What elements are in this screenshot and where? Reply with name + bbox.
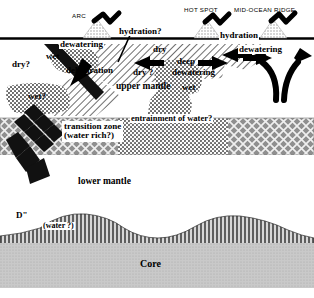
label-mid-ocean-ridge: MID-OCEAN RIDGE	[234, 7, 295, 14]
label-upper-mantle: upper mantle	[116, 82, 170, 92]
eruption-squiggle-hot-spot	[205, 14, 229, 23]
label-deep-dewatering: dewatering	[172, 68, 215, 77]
label-d-layer-water: (water ?)	[42, 222, 75, 230]
label-arc: ARC	[72, 13, 86, 20]
label-wet-plume: wet	[182, 83, 196, 92]
eruption-squiggle-arc	[94, 13, 119, 22]
label-dewatering-arc: dewatering	[59, 40, 104, 49]
label-hydration-ridge: hydration	[219, 31, 259, 40]
label-dry-wedge: dry	[153, 45, 167, 54]
label-transition-zone-water: (water rich?)	[64, 131, 121, 140]
label-hydration-arc: hydration?	[118, 27, 163, 36]
label-deep: deep	[177, 57, 195, 66]
label-entrainment-of-water: entrainment of water?	[130, 114, 213, 123]
label-dewatering-ridge: dewatering	[238, 45, 283, 54]
label-dehydration: dehydration	[66, 66, 113, 75]
label-lower-mantle: lower mantle	[78, 177, 131, 187]
mantle-water-cycle-figure: ARC HOT SPOT MID-OCEAN RIDGE hydration? …	[0, 0, 314, 298]
label-d-double-prime: D"	[16, 211, 28, 220]
label-wet-question: wet?	[28, 92, 46, 101]
label-hot-spot: HOT SPOT	[184, 7, 218, 14]
label-dry-question: dry ?	[133, 68, 153, 77]
label-core: Core	[140, 259, 161, 270]
transition-zone-label-box: transition zone (water rich?)	[62, 121, 123, 142]
label-dry-left: dry?	[12, 60, 30, 69]
label-wet-slabtop: wet	[46, 52, 60, 61]
eruption-squiggle-ridge	[271, 13, 295, 22]
